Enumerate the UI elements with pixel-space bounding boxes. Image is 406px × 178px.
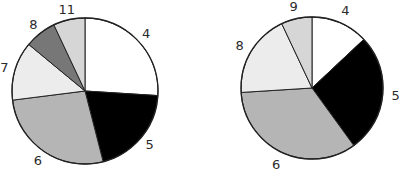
slice-label-8: 8 [29,17,37,32]
slice-label-4: 4 [341,3,349,18]
slice-label-7: 7 [0,60,8,75]
pie-charts: 4567811 45689 [0,0,406,178]
slice-label-11: 11 [58,2,75,17]
slice-label-9: 9 [290,0,298,14]
slice-label-6: 6 [272,157,280,172]
slice-label-6: 6 [34,153,42,168]
slice-label-5: 5 [391,88,399,103]
slice-label-5: 5 [146,137,154,152]
slice-label-4: 4 [142,26,150,41]
pie-chart-left: 4567811 [0,2,158,169]
pie-chart-right: 45689 [236,0,400,172]
slice-label-8: 8 [236,38,244,53]
